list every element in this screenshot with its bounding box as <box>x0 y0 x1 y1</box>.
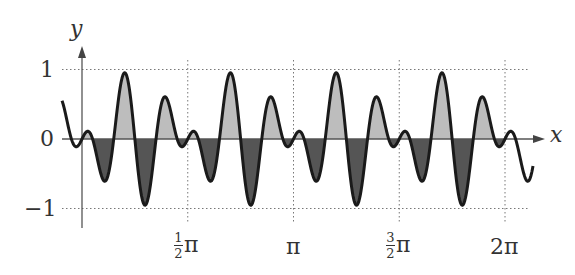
x-tick-pi: π <box>286 236 300 258</box>
y-tick-0: 0 <box>40 128 54 150</box>
x-axis-arrow-icon <box>533 135 545 143</box>
x-tick-half-pi: 12π <box>174 231 198 260</box>
y-axis-arrow-icon <box>78 46 86 58</box>
x-tick-two-pi: 2π <box>490 236 518 258</box>
y-axis-label: y <box>70 18 82 40</box>
y-tick-neg1: −1 <box>24 198 56 220</box>
x-tick-three-half-pi: 32π <box>386 231 410 260</box>
y-tick-1: 1 <box>40 59 54 81</box>
x-axis-label: x <box>550 124 562 146</box>
